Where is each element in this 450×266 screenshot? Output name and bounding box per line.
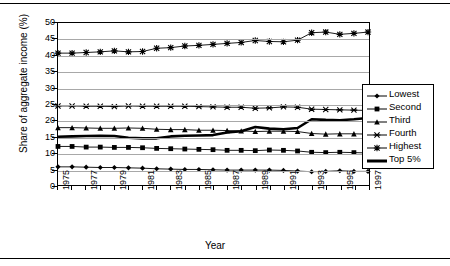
- x-tick-mark: [355, 186, 356, 190]
- x-tick-mark: [114, 186, 115, 190]
- y-tick-mark: [52, 104, 57, 105]
- square-marker: [197, 147, 202, 152]
- square-marker: [168, 146, 173, 151]
- asterisk-marker: [374, 144, 380, 150]
- x-tick-mark: [156, 186, 157, 190]
- x-tick-mark: [170, 186, 171, 190]
- x-bar-marker: [266, 105, 273, 110]
- y-tick-mark: [52, 71, 57, 72]
- x-tick-mark: [312, 186, 313, 190]
- x-tick-mark: [326, 186, 327, 190]
- square-marker: [126, 145, 131, 150]
- asterisk-marker: [196, 42, 202, 48]
- square-marker: [56, 144, 61, 149]
- x-tick-label: 1987: [231, 170, 241, 190]
- x-bar-marker: [374, 132, 381, 137]
- x-tick-label: 1979: [118, 170, 128, 190]
- square-marker: [140, 145, 145, 150]
- x-tick-mark: [71, 186, 72, 190]
- x-tick-label: 1977: [89, 170, 99, 190]
- series-highest: [55, 29, 371, 56]
- asterisk-marker: [125, 49, 131, 55]
- square-marker: [154, 146, 159, 151]
- square-marker: [375, 106, 380, 111]
- legend-label: Fourth: [388, 128, 416, 138]
- x-tick-mark: [57, 186, 58, 190]
- asterisk-marker: [153, 45, 159, 51]
- legend-label: Top 5%: [388, 154, 421, 164]
- diamond-marker: [112, 165, 117, 170]
- x-tick-mark: [213, 186, 214, 190]
- y-tick-mark: [52, 22, 57, 23]
- legend-label: Third: [388, 115, 411, 125]
- x-tick-mark: [128, 186, 129, 190]
- asterisk-marker: [83, 49, 89, 55]
- asterisk-marker: [351, 30, 357, 36]
- gridline: [58, 56, 369, 57]
- square-marker: [70, 144, 75, 149]
- page-rule-top: [0, 3, 450, 4]
- legend-key-thick-line: [366, 153, 388, 165]
- x-tick-mark: [142, 186, 143, 190]
- square-marker: [295, 149, 300, 154]
- legend-label: Highest: [388, 141, 421, 151]
- x-tick-mark: [270, 186, 271, 190]
- x-tick-label: 1981: [146, 170, 156, 190]
- x-tick-label: 1991: [288, 170, 298, 190]
- legend-item-fourth[interactable]: Fourth: [366, 126, 430, 139]
- x-tick-label: 1995: [345, 170, 355, 190]
- asterisk-marker: [308, 30, 314, 36]
- square-marker: [239, 148, 244, 153]
- legend-key-diamond-icon: [366, 88, 388, 100]
- x-bar-marker: [351, 108, 358, 113]
- square-marker: [98, 145, 103, 150]
- x-tick-mark: [227, 186, 228, 190]
- y-tick-mark: [52, 153, 57, 154]
- x-tick-label: 1997: [373, 170, 383, 190]
- gridline: [58, 89, 369, 90]
- diamond-marker: [84, 165, 89, 170]
- plot-area: [57, 22, 370, 186]
- figure-container: Share of aggregate income (%) 0510152025…: [0, 0, 450, 266]
- x-tick-mark: [199, 186, 200, 190]
- gridline: [58, 105, 369, 106]
- x-tick-label: 1985: [203, 170, 213, 190]
- y-tick-mark: [52, 120, 57, 121]
- legend-item-top-5[interactable]: Top 5%: [366, 152, 430, 165]
- asterisk-marker: [111, 48, 117, 54]
- asterisk-marker: [323, 29, 329, 35]
- legend-item-second[interactable]: Second: [366, 100, 430, 113]
- x-tick-mark: [256, 186, 257, 190]
- square-marker: [253, 148, 258, 153]
- x-tick-mark: [284, 186, 285, 190]
- y-tick-mark: [52, 88, 57, 89]
- square-marker: [112, 145, 117, 150]
- gridline: [58, 121, 369, 122]
- x-tick-label: 1989: [260, 170, 270, 190]
- legend-key-x-bar-icon: [366, 127, 388, 139]
- square-marker: [267, 148, 272, 153]
- series-layer: [58, 23, 369, 185]
- square-marker: [225, 148, 230, 153]
- y-tick-mark: [52, 137, 57, 138]
- x-tick-label: 1993: [316, 170, 326, 190]
- x-tick-mark: [241, 186, 242, 190]
- legend-item-highest[interactable]: Highest: [366, 139, 430, 152]
- x-bar-marker: [308, 107, 315, 112]
- asterisk-marker: [224, 40, 230, 46]
- x-bar-marker: [336, 107, 343, 112]
- legend-label: Lowest: [388, 89, 419, 99]
- legend-key-square-icon: [366, 101, 388, 113]
- legend-key-triangle-icon: [366, 114, 388, 126]
- legend-item-lowest[interactable]: Lowest: [366, 87, 430, 100]
- asterisk-marker: [139, 48, 145, 54]
- x-bar-marker: [252, 106, 259, 111]
- x-tick-label: 1975: [61, 170, 71, 190]
- x-tick-mark: [341, 186, 342, 190]
- square-marker: [211, 147, 216, 152]
- asterisk-marker: [337, 31, 343, 37]
- legend-item-third[interactable]: Third: [366, 113, 430, 126]
- diamond-marker: [70, 164, 75, 169]
- asterisk-marker: [210, 41, 216, 47]
- x-tick-mark: [298, 186, 299, 190]
